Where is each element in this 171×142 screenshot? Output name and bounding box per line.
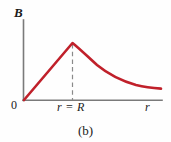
- y-axis-label: B: [14, 6, 23, 19]
- b-field-curve: [24, 43, 161, 100]
- physics-figure: B 0 r = R r (b): [0, 0, 171, 142]
- origin-label: 0: [11, 99, 17, 111]
- figure-caption: (b): [0, 124, 171, 137]
- x-axis-label: r: [145, 101, 150, 113]
- r-equals-R-label: r = R: [57, 101, 85, 113]
- plot-area: [0, 0, 171, 142]
